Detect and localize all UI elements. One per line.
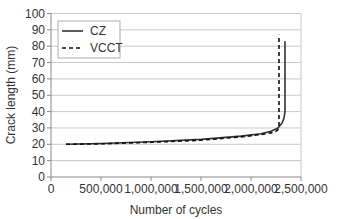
y-tick-label: 40 [32,105,46,119]
y-tick-label: 70 [32,56,46,70]
x-axis-ticks: 0500,0001,000,0001,500,0002,000,0002,500… [48,177,328,196]
y-axis-ticks: 0102030405060708090100 [25,7,51,185]
y-tick-label: 20 [32,137,46,151]
x-axis-label: Number of cycles [130,203,223,217]
y-tick-label: 100 [25,7,45,21]
x-tick-label: 2,500,000 [274,182,328,196]
y-tick-label: 60 [32,72,46,86]
y-tick-label: 30 [32,121,46,135]
y-tick-label: 80 [32,39,46,53]
x-tick-label: 1,000,000 [124,182,178,196]
legend: CZ VCCT [58,21,123,58]
y-tick-label: 50 [32,88,46,102]
x-tick-label: 2,000,000 [224,182,278,196]
legend-item-cz: CZ [90,24,106,38]
chart: 0102030405060708090100 0500,0001,000,000… [0,0,339,219]
x-tick-label: 500,000 [79,182,123,196]
x-tick-label: 1,500,000 [174,182,228,196]
y-tick-label: 90 [32,23,46,37]
y-tick-label: 0 [38,170,45,184]
y-tick-label: 10 [32,154,46,168]
legend-item-vcct: VCCT [90,41,123,55]
x-tick-label: 0 [48,182,55,196]
y-axis-label: Crack length (mm) [4,46,18,145]
